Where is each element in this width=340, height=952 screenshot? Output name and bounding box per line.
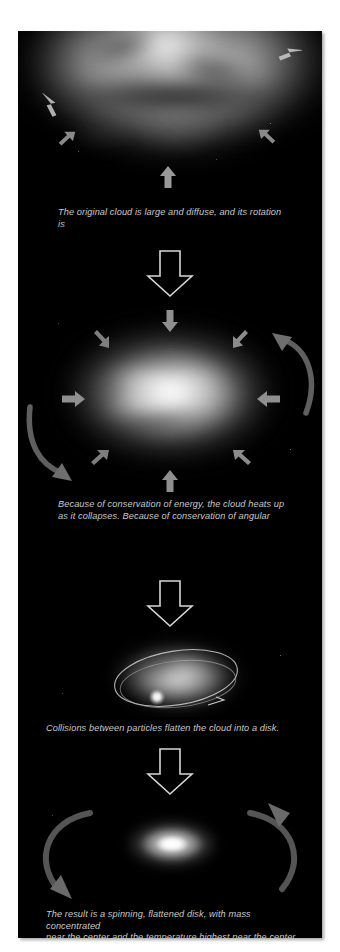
caption-line: Collisions between particles flatten the… [46,723,302,735]
stage-3-scene [18,631,322,717]
stage-2-scene [18,299,322,499]
inward-arrow-stage1-ne [276,43,302,69]
arrow-down-outline-icon [142,249,198,299]
stage-3-caption: Collisions between particles flatten the… [46,723,302,735]
inward-arrow-stage2-se [230,447,254,471]
inward-arrow-stage2-n [160,309,180,333]
stage-4-caption: The result is a spinning, flattened disk… [46,909,302,938]
rotation-arrow-stage2-right [266,325,322,421]
inward-arrow-stage1-sw [56,129,78,151]
stage-2: Because of conservation of energy, the c… [18,299,322,521]
nebula-collapse-figure: The original cloud is large and diffuse,… [18,31,322,938]
inward-arrow-stage1-se [256,127,278,149]
stage-4-scene [18,797,322,905]
inward-arrow-stage2-s [160,469,180,493]
inward-arrow-stage2-sw [88,447,112,471]
transition-3 [18,747,322,797]
caption-line: as it collapses. Because of conservation… [58,511,290,521]
stage-3: Collisions between particles flatten the… [18,631,322,741]
arrow-down-outline-icon [142,747,198,797]
stage-1: The original cloud is large and diffuse,… [18,31,322,231]
caption-line: imperceptibly slow. The cloud begins to … [58,230,290,231]
inward-arrow-stage1-w [34,93,62,121]
caption-line: The original cloud is large and diffuse,… [58,207,290,230]
stage-4: The result is a spinning, flattened disk… [18,797,322,938]
stage-1-caption: The original cloud is large and diffuse,… [58,207,290,231]
rotation-arrow-stage4-left [28,803,108,905]
caption-line: near the center and the temperature high… [46,932,302,938]
stage-2-caption: Because of conservation of energy, the c… [58,499,290,521]
arrow-down-outline-icon [142,579,198,629]
orbit-path-icon [106,645,246,717]
transition-1 [18,249,322,299]
caption-line: Because of conservation of energy, the c… [58,499,290,511]
transition-2 [18,579,322,629]
rotation-arrow-stage2-left [20,403,78,493]
inward-arrow-stage2-nw [88,327,112,351]
caption-line: The result is a spinning, flattened disk… [46,909,302,932]
inward-arrow-stage1-s [158,165,178,189]
rotation-arrow-stage4-right [232,803,312,905]
flattening-disk-illustration [18,631,322,717]
inward-arrow-stage2-ne [230,327,254,351]
stage-1-scene [18,31,322,201]
